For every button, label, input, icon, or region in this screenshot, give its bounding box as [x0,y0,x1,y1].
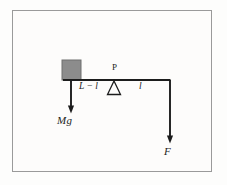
mass-block [62,60,81,80]
figure-root: L − l l P Mg F [0,0,227,185]
fulcrum-triangle [108,81,121,95]
force-arrow-head [167,136,173,144]
lever-diagram [0,0,227,185]
weight-arrow-head [68,106,74,114]
pivot-label: P [112,63,117,72]
right-span-label: l [139,82,142,92]
left-span-label: L − l [79,82,98,92]
weight-force-label: Mg [57,115,72,126]
applied-force-label: F [164,146,171,157]
